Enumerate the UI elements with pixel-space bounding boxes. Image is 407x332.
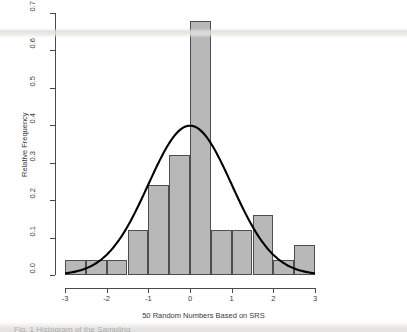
histogram-bar <box>86 260 107 275</box>
y-tick-label: 0.1 <box>28 226 42 236</box>
y-tick-label-text: 0.6 <box>28 38 37 48</box>
x-tick-label: 1 <box>220 294 244 303</box>
y-tick-mark <box>50 163 55 164</box>
histogram-bar <box>273 260 294 275</box>
x-tick-label: 3 <box>303 294 327 303</box>
x-tick-label: 0 <box>178 294 202 303</box>
y-tick-label: 0.6 <box>28 38 42 48</box>
y-tick-mark <box>50 13 55 14</box>
page-caption-sliver: Fig. 1 Histogram of the Sampling <box>14 325 404 332</box>
histogram-figure: 0.00.10.20.30.40.50.60.7 Relative Freque… <box>0 0 407 332</box>
x-tick-label: -1 <box>136 294 160 303</box>
histogram-bar <box>169 155 190 275</box>
y-tick-label-text: 0.0 <box>28 263 37 273</box>
y-tick-mark <box>50 200 55 201</box>
histogram-bar <box>107 260 128 275</box>
histogram-bar <box>148 185 169 275</box>
x-tick-mark <box>65 288 66 293</box>
plot-area <box>65 13 315 275</box>
y-tick-mark <box>50 275 55 276</box>
x-tick-mark <box>107 288 108 293</box>
y-tick-mark <box>50 238 55 239</box>
y-tick-label: 0.2 <box>28 188 42 198</box>
y-tick-label: 0.4 <box>28 113 42 123</box>
x-tick-label: 2 <box>261 294 285 303</box>
y-axis-title: Relative Frequency <box>19 90 30 200</box>
y-axis-line <box>55 13 56 275</box>
y-tick-mark <box>50 50 55 51</box>
y-tick-label-text: 0.7 <box>28 1 37 11</box>
histogram-bar <box>253 215 274 275</box>
x-tick-label: -3 <box>53 294 77 303</box>
x-tick-mark <box>273 288 274 293</box>
y-tick-label-text: 0.1 <box>28 226 37 236</box>
y-tick-label-text: 0.5 <box>28 76 37 86</box>
y-tick-label: 0.5 <box>28 76 42 86</box>
histogram-bar <box>211 230 232 275</box>
x-tick-mark <box>232 288 233 293</box>
x-tick-mark <box>190 288 191 293</box>
x-tick-mark <box>315 288 316 293</box>
histogram-bar <box>190 21 211 276</box>
x-axis-title: 50 Random Numbers Based on SRS <box>0 311 407 320</box>
histogram-bar <box>294 245 315 275</box>
x-tick-label: -2 <box>95 294 119 303</box>
histogram-bar <box>65 260 86 275</box>
histogram-bar <box>232 230 253 275</box>
y-tick-label: 0.7 <box>28 1 42 11</box>
y-tick-mark <box>50 125 55 126</box>
y-tick-label: 0.0 <box>28 263 42 273</box>
histogram-bar <box>128 230 149 275</box>
y-tick-mark <box>50 88 55 89</box>
x-tick-mark <box>148 288 149 293</box>
y-tick-label: 0.3 <box>28 151 42 161</box>
